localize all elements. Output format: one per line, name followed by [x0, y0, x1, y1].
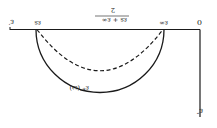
midpoint-numerator: εs + ε∞ — [102, 16, 127, 24]
solid-semicircle — [36, 30, 164, 93]
dashed-arc — [37, 30, 163, 71]
x-axis-label: ε′ — [8, 18, 14, 26]
eps-inf-label: ε∞ — [159, 19, 168, 27]
midpoint-denominator: 2 — [111, 6, 115, 14]
curve-label: ε*″(ω) — [69, 84, 89, 92]
eps-s-label: εs — [34, 19, 41, 27]
origin-label: 0 — [197, 18, 202, 27]
cole-cole-diagram: 0 ε′ ε″ ε∞ εs εs + ε∞ 2 ε*″(ω) — [0, 0, 217, 128]
y-axis-label: ε″ — [196, 107, 203, 115]
